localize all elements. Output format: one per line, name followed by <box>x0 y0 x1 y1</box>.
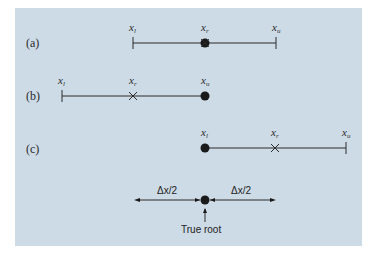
row-label-b: (b) <box>26 89 40 103</box>
root-dot-b <box>201 92 210 101</box>
label-xl-a: xl <box>128 21 136 35</box>
label-xr-a: xr <box>200 21 209 35</box>
half-interval-left-label: Δx/2 <box>157 185 177 196</box>
label-xu-c: xu <box>341 126 351 140</box>
label-xl-c: xl <box>200 126 208 140</box>
root-dot-bottom <box>201 196 210 205</box>
row-label-c: (c) <box>26 142 39 156</box>
root-dot-c <box>201 144 210 153</box>
true-root-label: True root <box>181 224 221 235</box>
arrowhead-right-outer <box>270 198 276 202</box>
label-xr-b: xr <box>128 74 137 88</box>
label-xr-c: xr <box>270 126 279 140</box>
label-xl-b: xl <box>57 74 65 88</box>
label-xu-b: xu <box>200 74 210 88</box>
row-label-a: (a) <box>26 36 39 50</box>
label-xu-a: xu <box>271 21 281 35</box>
bisection-diagram: (a) (b) (c) xl xr xu xl xr xu xl xr xu Δ… <box>0 0 378 256</box>
arrowhead-left-outer <box>134 198 140 202</box>
half-interval-right-label: Δx/2 <box>231 185 251 196</box>
